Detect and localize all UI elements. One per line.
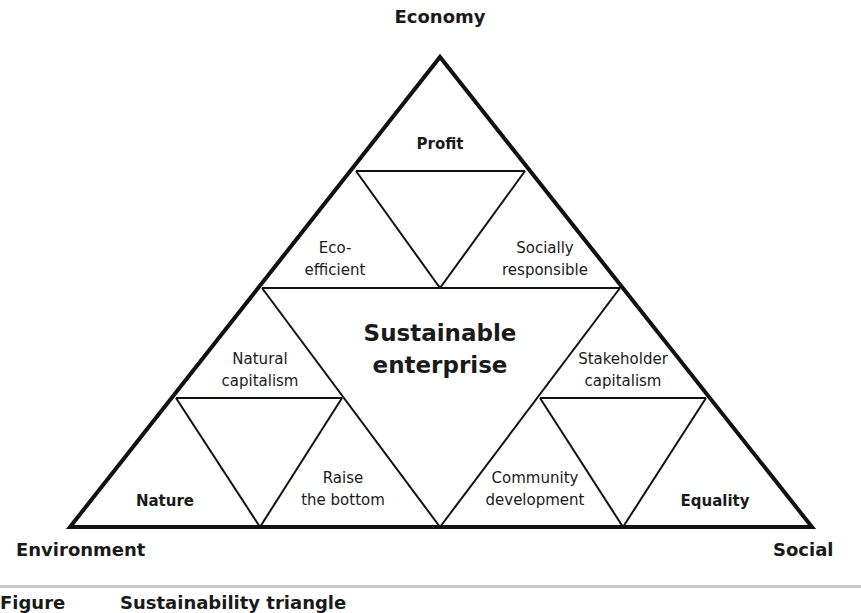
cell-stakeholder-capitalism: Stakeholder capitalism bbox=[553, 348, 693, 392]
cell-socially-responsible-line1: Socially bbox=[480, 237, 610, 259]
cell-eco-efficient-line2: efficient bbox=[280, 259, 390, 281]
cell-nature-label: Nature bbox=[136, 492, 194, 510]
cell-natural-capitalism-line1: Natural bbox=[190, 348, 330, 370]
cell-profit: Profit bbox=[390, 133, 490, 155]
cell-community-development: Community development bbox=[470, 467, 600, 511]
vertex-label-economy: Economy bbox=[393, 6, 487, 27]
cell-equality: Equality bbox=[660, 490, 770, 512]
center-sustainable-enterprise: Sustainable enterprise bbox=[340, 317, 540, 381]
cell-socially-responsible-line2: responsible bbox=[480, 259, 610, 281]
cell-community-development-line2: development bbox=[470, 489, 600, 511]
cell-natural-capitalism: Natural capitalism bbox=[190, 348, 330, 392]
cell-eco-efficient-line1: Eco- bbox=[280, 237, 390, 259]
cell-profit-label: Profit bbox=[417, 135, 464, 153]
cell-raise-the-bottom: Raise the bottom bbox=[283, 467, 403, 511]
cell-raise-the-bottom-line2: the bottom bbox=[283, 489, 403, 511]
cell-eco-efficient: Eco- efficient bbox=[280, 237, 390, 281]
center-title-line1: Sustainable bbox=[340, 317, 540, 349]
cell-socially-responsible: Socially responsible bbox=[480, 237, 610, 281]
cell-stakeholder-capitalism-line2: capitalism bbox=[553, 370, 693, 392]
caption-title: Sustainability triangle bbox=[120, 592, 346, 613]
figure-caption: FigureSustainability triangle bbox=[0, 592, 346, 613]
cell-raise-the-bottom-line1: Raise bbox=[283, 467, 403, 489]
cell-community-development-line1: Community bbox=[470, 467, 600, 489]
vertex-label-environment: Environment bbox=[16, 539, 145, 560]
outer-triangle bbox=[70, 57, 812, 527]
center-title-line2: enterprise bbox=[340, 349, 540, 381]
caption-divider bbox=[0, 585, 861, 588]
cell-nature: Nature bbox=[115, 490, 215, 512]
cell-stakeholder-capitalism-line1: Stakeholder bbox=[553, 348, 693, 370]
vertex-label-social: Social bbox=[773, 539, 834, 560]
cell-equality-label: Equality bbox=[680, 492, 749, 510]
cell-natural-capitalism-line2: capitalism bbox=[190, 370, 330, 392]
caption-label: Figure bbox=[0, 592, 120, 613]
